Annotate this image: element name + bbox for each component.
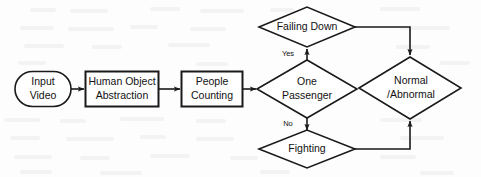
node-one-passenger[interactable]: One Passenger — [257, 60, 357, 118]
node-human-object-abstraction[interactable]: Human Object Abstraction — [86, 72, 159, 107]
normal-abnormal-label-line2: /Abnormal — [387, 88, 435, 100]
people-counting-label-line2: Counting — [191, 89, 233, 101]
people-counting-label-line1: People — [196, 75, 229, 87]
one-passenger-label-line2: Passenger — [282, 89, 333, 101]
human-object-abstraction-label-line1: Human Object — [88, 75, 155, 87]
normal-abnormal-label-line1: Normal — [394, 74, 428, 86]
node-input-video[interactable]: Input Video — [15, 72, 71, 107]
fighting-label: Fighting — [288, 142, 326, 154]
node-normal-abnormal[interactable]: Normal /Abnormal — [359, 57, 461, 119]
node-failing-down[interactable]: Failing Down — [259, 7, 355, 47]
edge-label-no: No — [283, 119, 293, 128]
edge-fighting-to-normal-abnormal — [355, 121, 410, 149]
node-people-counting[interactable]: People Counting — [182, 72, 243, 107]
node-fighting[interactable]: Fighting — [259, 130, 355, 168]
edge-label-yes: Yes — [282, 49, 294, 58]
edge-failing-down-to-normal-abnormal — [355, 27, 410, 55]
failing-down-label: Failing Down — [277, 20, 338, 32]
one-passenger-label-line1: One — [297, 75, 317, 87]
flowchart-diagram: Yes No Input Video Human Object Abstract… — [0, 0, 481, 177]
human-object-abstraction-label-line2: Abstraction — [96, 89, 149, 101]
input-video-label-line1: Input — [31, 75, 54, 87]
input-video-label-line2: Video — [30, 89, 57, 101]
